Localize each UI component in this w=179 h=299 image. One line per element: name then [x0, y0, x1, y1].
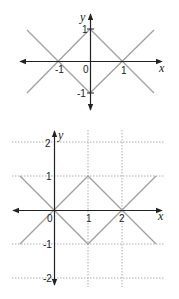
- bottom-tick-label-yneg2: -2: [43, 273, 52, 284]
- bottom-tick-label-origin: 0: [47, 213, 53, 224]
- bottom-y-label: y: [57, 128, 64, 142]
- top-chart: y x 1 -1 -1 0 1: [20, 10, 165, 110]
- bottom-tick-label-x1: 1: [86, 213, 92, 224]
- top-tick-label-y1: 1: [82, 24, 88, 35]
- bottom-tick-label-x2: 2: [119, 213, 125, 224]
- bottom-chart: y x 2 1 -1 -2 0 1 2: [12, 128, 165, 287]
- top-x-label: x: [158, 61, 165, 75]
- bottom-tick-label-y2: 2: [45, 138, 51, 149]
- bottom-grid: [12, 130, 165, 287]
- top-y-label: y: [79, 10, 86, 24]
- figure: y x 1 -1 -1 0 1 y x 2 1 -1 -2 0: [0, 0, 179, 299]
- bottom-tick-label-yneg1: -1: [43, 239, 52, 250]
- top-tick-label-origin: 0: [83, 64, 89, 75]
- bottom-x-label: x: [157, 209, 164, 223]
- top-tick-label-xneg1: -1: [55, 64, 64, 75]
- top-tick-label-yneg1: -1: [77, 88, 86, 99]
- top-tick-label-x1: 1: [121, 65, 127, 76]
- bottom-tick-label-y1: 1: [46, 171, 52, 182]
